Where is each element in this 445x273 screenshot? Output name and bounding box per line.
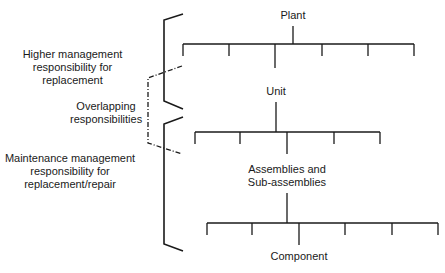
overlap-bracket bbox=[148, 66, 182, 154]
maintenance-management-line2: responsibility for bbox=[4, 165, 136, 178]
hierarchy-diagram bbox=[0, 0, 445, 273]
higher-management-line1: Higher management bbox=[20, 48, 125, 61]
maintenance-management-line1: Maintenance management bbox=[4, 152, 136, 165]
node-assemblies: Assemblies and Sub-assemblies bbox=[248, 163, 326, 189]
node-component: Component bbox=[271, 250, 328, 263]
overlap-line2: responsibilities bbox=[70, 113, 142, 126]
node-plant: Plant bbox=[280, 9, 305, 22]
maintenance-management-label: Maintenance management responsibility fo… bbox=[4, 152, 136, 191]
maintenance-management-line3: replacement/repair bbox=[4, 178, 136, 191]
overlap-label: Overlapping responsibilities bbox=[70, 100, 142, 126]
node-unit: Unit bbox=[266, 85, 286, 98]
assemblies-branches bbox=[207, 193, 438, 245]
higher-management-label: Higher management responsibility for rep… bbox=[20, 48, 125, 87]
higher-management-line2: responsibility for bbox=[20, 61, 125, 74]
node-assemblies-line2: Sub-assemblies bbox=[248, 176, 326, 189]
plant-branches bbox=[183, 26, 414, 68]
node-assemblies-line1: Assemblies and bbox=[248, 163, 326, 176]
overlap-line1: Overlapping bbox=[70, 100, 142, 113]
maintenance-management-bracket bbox=[164, 117, 183, 251]
unit-branches bbox=[195, 102, 380, 154]
higher-management-bracket bbox=[164, 14, 183, 109]
higher-management-line3: replacement bbox=[20, 74, 125, 87]
